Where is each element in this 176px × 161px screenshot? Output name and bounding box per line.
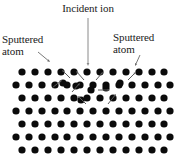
cascade-arrow-7-line [108, 96, 115, 104]
cascade-arrow-0-line [52, 81, 60, 88]
cascade-arrow-4-head [107, 89, 110, 91]
incident-ion-arrow-head [87, 63, 90, 66]
cascade-arrow-2-line [78, 73, 84, 80]
cascade-arrow-6-line [80, 98, 86, 104]
sputtered-right-pointer-line [136, 55, 140, 64]
cascade-arrow-group [52, 70, 136, 104]
cascade-arrow-8-line [128, 74, 134, 80]
sputtered-atom-label-left: Sputtered atom [2, 34, 64, 57]
sputtered-atom-label-right: Sputtered atom [113, 32, 175, 55]
cascade-arrow-5-line [72, 85, 78, 92]
sputtering-diagram: Incident ion Sputtered atom Sputtered at… [0, 0, 176, 161]
cascade-arrow-3-line [96, 74, 101, 80]
incident-ion-label: Incident ion [0, 3, 176, 15]
arrow-layer [0, 0, 176, 161]
incident-ion-arrow [87, 18, 90, 66]
cascade-arrow-1-line [64, 72, 70, 78]
